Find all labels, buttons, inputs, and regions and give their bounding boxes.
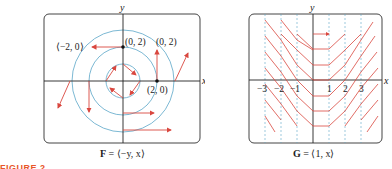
point-label-neg2-0: ⟨−2, 0⟩ (56, 42, 84, 52)
tick-3: 3 (359, 84, 364, 94)
axis-x-label-f: x (201, 75, 205, 86)
caption-g-rest: = ⟨1, x⟩ (301, 148, 335, 159)
vector-field-g-plot: −3 −2 −1 1 2 3 y x (245, 0, 392, 150)
vector-field-panel-f: y x (0, 2) (0, 2) ⟨−2, 0⟩ (2, 0) F = ⟨−y… (40, 0, 205, 160)
figure-label: FIGURE 2 (0, 163, 46, 169)
tick-neg2: −2 (274, 84, 284, 94)
point-label-0-2: (0, 2) (125, 37, 146, 48)
vector-field-panel-g: −3 −2 −1 1 2 3 y x G = ⟨1, x⟩ (245, 0, 392, 160)
axis-y-label-g: y (309, 2, 315, 13)
tick-neg3: −3 (257, 84, 267, 94)
caption-f-rest: = ⟨−y, x⟩ (106, 148, 145, 159)
tick-2: 2 (343, 84, 348, 94)
point-label-2-0: (2, 0) (147, 85, 168, 96)
point-label-0-2-b: (0, 2) (156, 37, 177, 48)
tick-neg1: −1 (290, 84, 300, 94)
caption-g-bold: G (293, 148, 301, 159)
caption-f: F = ⟨−y, x⟩ (100, 148, 145, 159)
tick-1: 1 (327, 84, 332, 94)
axis-x-label-g: x (383, 75, 389, 86)
caption-g: G = ⟨1, x⟩ (293, 148, 334, 159)
axis-y-label-f: y (119, 2, 125, 13)
vector-field-f-plot: y x (0, 2) (0, 2) ⟨−2, 0⟩ (2, 0) (40, 0, 205, 150)
